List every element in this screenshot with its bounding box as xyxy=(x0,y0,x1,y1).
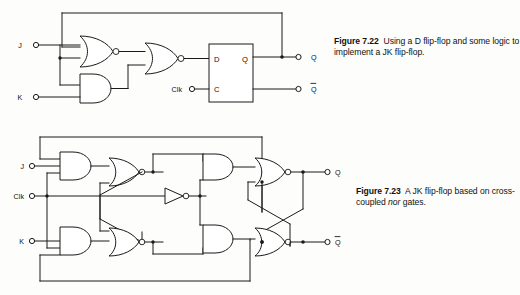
figure-7-23-caption-italic-word: nor xyxy=(388,197,400,207)
figure-7-23-caption-line2-post: gates. xyxy=(400,197,425,207)
figure-7-22-diagram: J K xyxy=(0,0,340,124)
figure-7-22-caption: Figure 7.22 Using a D flip-flop and some… xyxy=(334,36,520,59)
and-gate-upper-right xyxy=(203,154,233,180)
input-terminal-clk[interactable] xyxy=(29,193,34,198)
nor-gate-lower-left-bubble xyxy=(139,239,145,245)
input-label-clk: Clk xyxy=(172,85,183,94)
input-label-k: K xyxy=(18,93,23,102)
input-terminal-k[interactable] xyxy=(29,238,34,243)
nor-gate-2-body xyxy=(145,43,178,74)
figure-7-22-number: Figure 7.22 xyxy=(334,36,379,46)
input-label-clk: Clk xyxy=(14,192,25,201)
nor-gate-q-bubble xyxy=(285,169,291,175)
figure-7-23-caption: Figure 7.23 A JK flip-flop based on cros… xyxy=(356,186,520,209)
junction-q-feedback xyxy=(280,55,284,59)
input-terminal-j[interactable] xyxy=(29,163,34,168)
output-terminal-qbar[interactable] xyxy=(325,239,330,244)
output-label-qbar: Q xyxy=(311,85,317,94)
input-label-j: J xyxy=(18,41,22,50)
and-gate-k-body xyxy=(60,227,91,255)
and-gate-lower-right xyxy=(203,225,233,253)
nor-gate-1-body xyxy=(80,36,113,67)
output-terminal-q[interactable] xyxy=(296,54,301,59)
and-gate-k xyxy=(60,227,91,255)
figure-7-22-caption-line1: Using a D flip-flop and xyxy=(384,36,467,46)
pin-label-c: C xyxy=(214,85,220,94)
and-gate-upper-right-body xyxy=(203,154,233,180)
inverter-clk xyxy=(165,188,189,204)
and-gate-j-body xyxy=(60,152,91,180)
nor-gate-1-bubble xyxy=(113,49,119,55)
output-label-q: Q xyxy=(311,53,317,62)
nor-gate-1 xyxy=(80,36,119,67)
nor-gate-lower-left xyxy=(109,228,145,256)
nor-gate-lower-left-body xyxy=(109,228,139,256)
junction-qbar-feedback xyxy=(260,240,264,244)
figure-page: J K xyxy=(0,0,520,295)
inverter-clk-bubble xyxy=(183,193,189,199)
nor-gate-2 xyxy=(145,43,184,74)
input-terminal-k[interactable] xyxy=(33,94,38,99)
figure-7-23-diagram: J Clk K xyxy=(0,124,345,295)
figure-7-23-caption-line1: A JK flip-flop based xyxy=(405,186,478,196)
pin-label-q: Q xyxy=(242,55,248,64)
output-label-qbar: Q xyxy=(335,238,341,247)
input-label-k: K xyxy=(19,237,24,246)
output-terminal-q[interactable] xyxy=(325,169,330,174)
nor-gate-qbar-body xyxy=(255,228,285,256)
figure-7-23-number: Figure 7.23 xyxy=(356,186,401,196)
and-gate-1 xyxy=(80,74,111,103)
junction-qbar-out xyxy=(301,240,305,244)
nor-gate-2-bubble xyxy=(178,56,184,62)
wire-q-cross-diag xyxy=(262,209,303,232)
pin-label-d: D xyxy=(214,55,220,64)
input-terminal-clk[interactable] xyxy=(189,86,194,91)
input-label-j: J xyxy=(20,162,24,171)
nor-gate-upper-left xyxy=(109,158,145,186)
output-terminal-qbar[interactable] xyxy=(296,86,301,91)
and-gate-1-body xyxy=(80,74,111,103)
and-gate-j xyxy=(60,152,91,180)
input-terminal-j[interactable] xyxy=(33,42,38,47)
output-label-q: Q xyxy=(335,168,341,177)
nor-gate-q-body xyxy=(255,158,285,186)
inverter-clk-body xyxy=(165,188,183,204)
and-gate-lower-right-body xyxy=(203,225,233,253)
